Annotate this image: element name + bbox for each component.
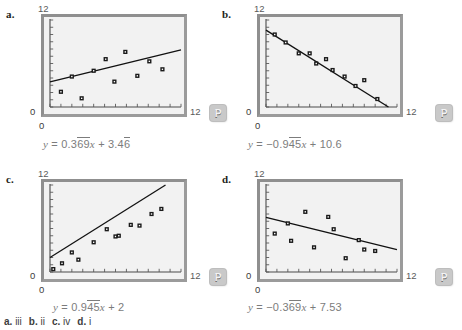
panel-a-x-max-label: 12 [190,106,201,117]
regression-line [50,50,181,82]
data-point [344,256,348,260]
panel-c-eq-lhs: y [53,301,58,313]
data-point [330,68,334,72]
data-point [273,231,277,235]
data-point [273,32,277,36]
answer-key-item: a. iii [4,316,22,327]
p-badge-label: P [215,108,222,119]
panel-d-equation: y = −0.369x + 7.53 [248,301,342,313]
panel-c-label: c. [6,173,14,185]
panel-b-eq-slope-repeating: 45 [289,137,302,150]
panel-d-eq-sign: = [256,301,263,313]
panel-a-eq-lhs: y [43,138,48,150]
data-point [375,97,379,101]
panel-a-eq-slope: 0.3 [61,138,77,150]
answer-key-item-key: c. [52,316,63,327]
data-point [289,239,293,243]
data-point [324,57,328,61]
panel-d-eq-lhs: y [248,301,253,313]
data-point [284,40,288,44]
p-badge-top-left[interactable]: P [210,105,226,121]
data-point [362,247,366,251]
panel-d-y-max-label: 12 [254,168,265,179]
panel-c-eq-var: x [100,301,105,313]
panel-b-eq-slope: −0.9 [266,138,289,150]
panel-a-equation: y = 0.369x + 3.46 [43,138,130,150]
panel-a-eq-slope-repeating: 69 [77,137,90,150]
data-point [343,74,347,78]
panel-b-eq-plus: + [310,138,317,150]
panel-d-eq-slope-repeating: 69 [289,300,302,313]
panel-a-scatter-svg [44,17,184,114]
data-point [149,212,153,216]
panel-d-origin-x-label: 0 [255,284,260,295]
panel-d-x-max-label: 12 [406,270,417,281]
panel-b-eq-var: x [301,138,306,150]
panel-a-origin-x-label: 0 [39,120,44,131]
panel-b-scatter-svg [260,17,400,114]
panel-a-eq-var: x [90,138,95,150]
data-point [303,210,307,214]
data-point [308,51,312,55]
data-point [314,61,318,65]
data-point [70,250,74,254]
panel-c-eq-sign: = [61,301,68,313]
panel-c-equation: y = 0.945x + 2 [53,301,124,313]
data-point [117,234,121,238]
data-point [357,238,361,242]
data-point [159,207,163,211]
answer-key-item-value: iv [63,316,70,327]
panel-c-scatter-svg [44,182,184,279]
panel-d-eq-slope: −0.3 [266,301,289,313]
p-badge-bottom-right[interactable]: P [436,269,452,285]
answer-key-item: d. i [77,316,91,327]
answer-key-item-value: i [89,316,91,327]
p-badge-top-right[interactable]: P [436,105,452,121]
data-point [312,245,316,249]
panel-a-eq-intercept: 3.4 [108,138,124,150]
data-point [297,51,301,55]
answer-key-item-key: b. [29,316,41,327]
panel-c-eq-intercept: 2 [118,301,124,313]
panel-d-scatter-svg [260,182,400,279]
p-badge-label: P [215,272,222,283]
data-point [123,50,127,54]
answer-key: a. iiib. iic. ivd. i [4,316,98,327]
panel-d-origin-y-label: 0 [246,270,251,281]
panel-a-eq-plus: + [98,138,105,150]
data-point [112,80,116,84]
data-point [332,227,336,231]
panel-a-eq-sign: = [51,138,58,150]
p-badge-label: P [441,272,448,283]
data-point [353,84,357,88]
data-point [135,74,139,78]
data-point [70,74,74,78]
answer-key-item-key: a. [4,316,15,327]
data-point [129,223,133,227]
panel-b-origin-x-label: 0 [255,120,260,131]
answer-key-item-key: d. [77,316,89,327]
p-badge-bottom-left[interactable]: P [210,269,226,285]
panel-c-origin-x-label: 0 [39,284,44,295]
panel-b-plot-area [257,14,403,117]
data-point [137,224,141,228]
panel-d-eq-plus: + [310,301,317,313]
panel-c-origin-y-label: 0 [30,270,35,281]
panel-d-label: d. [222,173,231,185]
data-point [160,67,164,71]
panel-a-y-max-label: 12 [38,3,49,14]
regression-line [50,185,166,258]
data-point [373,249,377,253]
panel-c-eq-slope-repeating: 45 [87,300,100,313]
panel-b-label: b. [222,8,231,20]
p-badge-label: P [441,108,448,119]
panel-c-x-max-label: 12 [190,270,201,281]
regression-line [266,217,397,249]
panel-a-origin-y-label: 0 [30,106,35,117]
data-point [92,240,96,244]
panel-c-plot-area [41,179,187,282]
panel-a-plot-area [41,14,187,117]
data-point [92,69,96,73]
panel-c-eq-slope: 0.9 [71,301,87,313]
panel-b-eq-lhs: y [248,138,253,150]
